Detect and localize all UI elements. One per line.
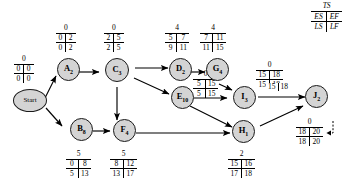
- es-d: 5: [165, 34, 177, 43]
- float-box-f: 5 8 12 13 17: [110, 150, 137, 178]
- node-label-h: H1: [239, 126, 249, 137]
- legend: TS ES EF LS LF: [311, 2, 342, 32]
- node-c[interactable]: C3: [105, 58, 129, 82]
- node-a[interactable]: A2: [57, 58, 80, 81]
- lf-e: 15: [206, 88, 219, 98]
- es-i: 15: [256, 71, 270, 80]
- eslsgrid-c: 2 5 2 5: [104, 33, 124, 52]
- network-diagram: Start A2 B8 C3 D2 E10 F4 G4 H1 I3 J2 0 0…: [0, 0, 346, 195]
- ts-j: 0: [296, 118, 323, 127]
- lf-start: 0: [24, 73, 34, 83]
- ef-g: 11: [213, 34, 226, 43]
- node-f[interactable]: F4: [113, 119, 136, 142]
- lf-d: 11: [177, 42, 189, 52]
- ef-i: 18: [270, 71, 284, 80]
- es-a: 0: [56, 34, 66, 43]
- legend-ef: EF: [327, 12, 342, 22]
- ls-g: 11: [200, 42, 213, 52]
- lf-h: 18: [242, 168, 256, 178]
- ts-c: 0: [104, 24, 124, 33]
- float-box-b: 5 0 8 5 13: [66, 150, 91, 178]
- es-e: 5: [193, 80, 206, 89]
- float-box-start: 0 0 0 0 0: [14, 55, 34, 83]
- lf-a: 2: [66, 42, 76, 52]
- ls-a: 0: [56, 42, 66, 52]
- ef-c: 5: [114, 34, 124, 43]
- ef-a: 2: [66, 34, 76, 43]
- eslsgrid-d: 5 7 9 11: [165, 33, 189, 52]
- node-label-c: C3: [112, 65, 121, 76]
- node-i[interactable]: I3: [233, 86, 256, 109]
- node-label-d: D2: [176, 64, 185, 75]
- edge-g-i: [219, 84, 232, 90]
- node-start[interactable]: Start: [13, 89, 47, 112]
- es-h: 15: [228, 160, 242, 169]
- es-b: 0: [66, 160, 79, 169]
- lf-g: 15: [213, 42, 226, 52]
- edge-label-ij-ef: 18: [279, 83, 291, 91]
- eslsgrid-f: 8 12 13 17: [110, 159, 137, 178]
- node-d[interactable]: D2: [169, 58, 192, 81]
- lf-f: 17: [124, 168, 138, 178]
- eslsgrid-a: 0 2 0 2: [56, 33, 76, 52]
- legend-es: ES: [311, 12, 326, 22]
- ls-e: 5: [193, 88, 206, 98]
- float-box-c: 0 2 5 2 5: [104, 24, 124, 52]
- lf-b: 13: [79, 168, 92, 178]
- float-box-g: 4 7 11 11 15: [200, 24, 226, 52]
- es-j: 18: [296, 128, 310, 137]
- ts-a: 0: [56, 24, 76, 33]
- node-label-b: B8: [77, 124, 86, 135]
- node-g[interactable]: G4: [206, 58, 229, 81]
- node-h[interactable]: H1: [232, 120, 255, 143]
- eslsgrid-h: 15 16 17 18: [228, 159, 255, 178]
- ts-f: 5: [110, 150, 137, 159]
- legend-ts: TS: [311, 2, 342, 11]
- edge-start-a: [45, 76, 56, 98]
- lf-c: 5: [114, 42, 124, 52]
- ef-h: 16: [242, 160, 256, 169]
- lf-j: 20: [310, 136, 324, 146]
- node-label-f: F4: [120, 125, 128, 136]
- ls-d: 9: [165, 42, 177, 52]
- ls-f: 13: [110, 168, 124, 178]
- es-start: 0: [14, 65, 24, 74]
- node-label-j: J2: [313, 91, 320, 102]
- node-label-g: G4: [213, 64, 223, 75]
- edge-c-e: [134, 78, 169, 94]
- end-marker-icon: [326, 120, 344, 142]
- es-g: 7: [200, 34, 213, 43]
- node-b[interactable]: B8: [70, 118, 93, 141]
- legend-grid: ES EF LS LF: [311, 11, 342, 32]
- ts-start: 0: [14, 55, 34, 64]
- node-label-e: E10: [177, 92, 189, 103]
- ef-start: 0: [24, 65, 34, 74]
- node-j[interactable]: J2: [305, 85, 328, 108]
- ls-start: 0: [14, 73, 24, 83]
- node-label-i: I3: [241, 92, 247, 103]
- legend-ls: LS: [311, 21, 326, 32]
- es-c: 2: [104, 34, 114, 43]
- eslsgrid-start: 0 0 0 0: [14, 64, 34, 83]
- ls-h: 17: [228, 168, 242, 178]
- ts-b: 5: [66, 150, 91, 159]
- float-box-a: 0 0 2 0 2: [56, 24, 76, 52]
- node-e[interactable]: E10: [171, 86, 194, 109]
- ef-f: 12: [124, 160, 138, 169]
- es-f: 8: [110, 160, 124, 169]
- ef-j: 20: [310, 128, 324, 137]
- ts-d: 4: [165, 24, 189, 33]
- node-label-start: Start: [23, 97, 36, 104]
- float-box-d: 4 5 7 9 11: [165, 24, 189, 52]
- float-box-j: 0 18 20 18 20: [296, 118, 323, 146]
- ts-h: 2: [228, 150, 255, 159]
- ef-b: 8: [79, 160, 92, 169]
- edge-label-ij-es: 15: [266, 83, 279, 91]
- float-box-h: 2 15 16 17 18: [228, 150, 255, 178]
- eslsgrid-g: 7 11 11 15: [200, 33, 226, 52]
- eslsgrid-j: 18 20 18 20: [296, 127, 323, 146]
- edge-label-ij: 15 18: [266, 83, 290, 91]
- node-label-a: A2: [64, 64, 73, 75]
- edge-e-h: [190, 106, 232, 127]
- ls-c: 2: [104, 42, 114, 52]
